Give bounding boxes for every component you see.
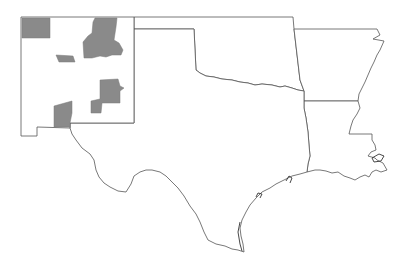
state-louisiana[interactable] <box>304 101 387 180</box>
map <box>0 0 420 269</box>
highlighted-county-west-central[interactable] <box>56 55 75 62</box>
highlighted-county-northwest[interactable] <box>22 18 50 38</box>
state-arkansas[interactable] <box>294 29 384 101</box>
